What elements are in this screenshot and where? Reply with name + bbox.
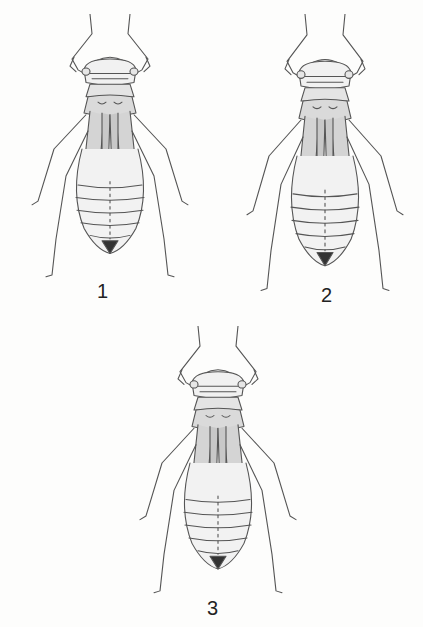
figure-label-2: 2 [321,284,332,307]
nymph-illustration-3 [118,326,318,600]
figure-label-1: 1 [97,280,108,303]
figure-label-3: 3 [207,597,218,620]
nymph-illustration-2 [225,14,423,298]
nymph-illustration-1 [10,14,210,284]
